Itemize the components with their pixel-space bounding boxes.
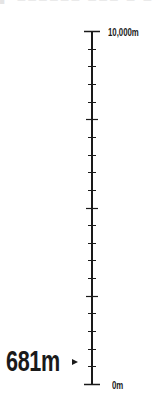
triangle-right-icon xyxy=(72,359,78,365)
scale-min-label: 0m xyxy=(112,380,123,391)
scale-max-label: 10,000m xyxy=(108,27,139,38)
current-altitude-readout: 681m xyxy=(6,346,60,376)
